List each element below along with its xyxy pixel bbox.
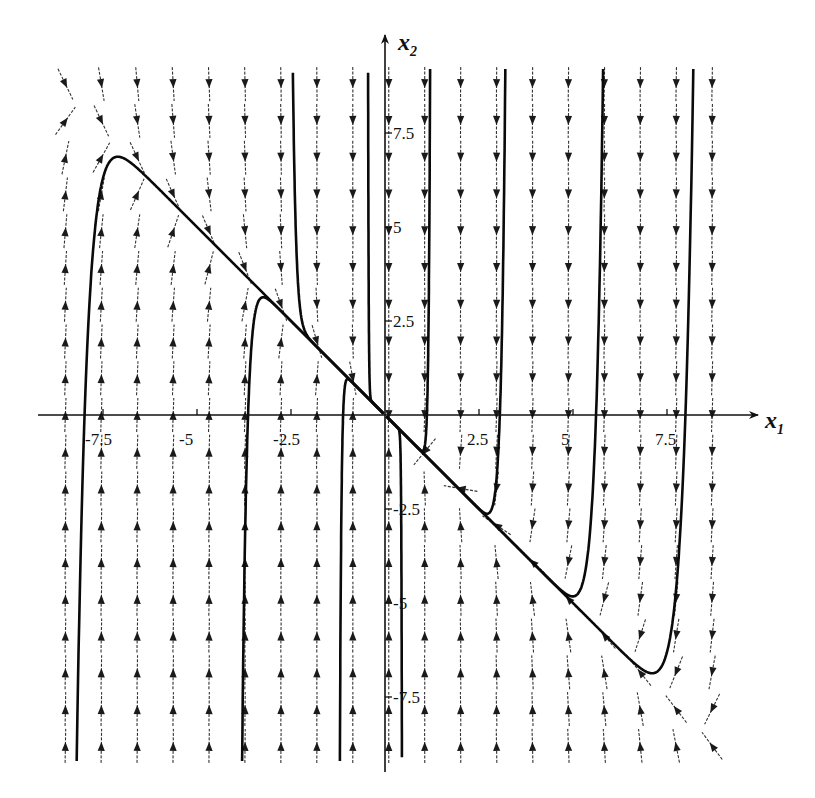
field-arrow: [61, 178, 68, 212]
field-arrow: [241, 325, 248, 359]
field-arrow: [277, 692, 284, 726]
field-arrow: [493, 288, 500, 322]
field-arrow: [277, 472, 284, 506]
field-arrow: [169, 508, 176, 542]
field-arrow: [457, 435, 464, 469]
field-arrow: [205, 67, 212, 101]
field-arrow: [313, 692, 320, 726]
field-arrow: [529, 729, 536, 763]
field-arrow: [457, 619, 464, 653]
x-tick-label: -7.5: [85, 430, 112, 449]
field-arrow: [277, 582, 284, 616]
field-arrow: [637, 214, 644, 248]
field-arrow: [205, 582, 212, 616]
field-arrow: [61, 214, 68, 248]
trajectory-traj-2: [242, 297, 384, 761]
field-arrow: [277, 251, 284, 285]
y-tick-label: 7.5: [393, 124, 414, 143]
field-arrow: [709, 214, 716, 248]
field-arrow: [277, 214, 284, 248]
field-arrow: [457, 692, 464, 726]
field-arrow: [205, 692, 212, 726]
field-arrow: [493, 582, 500, 616]
field-arrow: [134, 545, 141, 579]
field-arrow: [134, 435, 141, 469]
field-arrow: [205, 619, 212, 653]
field-arrow: [134, 729, 141, 763]
field-arrow: [277, 104, 284, 138]
field-arrow: [62, 619, 69, 653]
field-arrow: [98, 692, 105, 726]
field-arrow: [529, 582, 536, 616]
field-arrow: [565, 251, 572, 285]
field-arrow: [134, 692, 141, 726]
field-arrow: [637, 508, 644, 542]
field-arrow: [313, 655, 320, 689]
field-arrow: [709, 67, 716, 101]
field-arrow: [133, 214, 140, 248]
field-arrow: [169, 141, 176, 175]
field-arrow: [673, 177, 680, 211]
field-arrow: [62, 361, 69, 395]
field-arrow: [565, 141, 572, 175]
field-arrow: [170, 729, 177, 763]
field-arrow: [98, 508, 105, 542]
field-arrow: [205, 325, 212, 359]
field-arrow: [385, 545, 392, 579]
field-arrow: [601, 545, 608, 579]
field-arrow: [241, 214, 248, 248]
field-arrow: [529, 251, 536, 285]
field-arrow: [349, 655, 356, 689]
field-arrow: [602, 656, 609, 690]
field-arrow: [97, 214, 104, 248]
field-arrow: [709, 251, 716, 285]
field-arrow: [385, 582, 392, 616]
field-arrow: [385, 141, 392, 175]
field-arrow: [98, 619, 105, 653]
field-arrow: [565, 177, 572, 211]
field-arrow: [457, 104, 464, 138]
field-arrow: [97, 288, 104, 322]
field-arrow: [601, 361, 608, 395]
field-arrow: [55, 107, 75, 135]
field-arrow: [637, 67, 644, 101]
field-arrow: [205, 729, 212, 763]
field-arrow: [169, 435, 176, 469]
field-arrow: [241, 141, 248, 175]
field-arrow: [134, 655, 141, 689]
field-arrow: [349, 435, 356, 469]
field-arrow: [168, 215, 179, 247]
field-arrow: [62, 435, 69, 469]
field-arrow: [673, 472, 680, 506]
field-arrow: [349, 288, 356, 322]
field-arrow: [637, 692, 644, 725]
field-arrow: [673, 104, 680, 138]
field-arrow: [637, 361, 644, 395]
x-tick-label: 2.5: [467, 430, 488, 449]
field-arrow: [277, 67, 284, 101]
field-arrow: [421, 214, 428, 248]
field-arrow: [457, 214, 464, 248]
field-arrow: [134, 582, 141, 616]
field-arrow: [349, 141, 356, 175]
field-arrow: [349, 67, 356, 101]
field-arrow: [421, 288, 428, 322]
field-arrow: [313, 251, 320, 285]
field-arrow: [169, 288, 176, 322]
field-arrow: [493, 251, 500, 285]
field-arrow: [130, 179, 144, 210]
field-arrow: [529, 214, 536, 248]
field-arrow: [670, 657, 683, 689]
field-arrow: [241, 104, 248, 138]
field-arrow: [62, 508, 69, 542]
field-arrow: [421, 141, 428, 175]
field-arrow: [385, 472, 392, 506]
field-arrow: [565, 472, 572, 506]
field-arrow: [169, 67, 176, 101]
field-arrow: [98, 582, 105, 616]
field-arrow: [457, 361, 464, 395]
field-arrow: [98, 655, 105, 689]
field-arrow: [457, 582, 464, 616]
field-arrow: [385, 324, 392, 358]
field-arrow: [385, 288, 392, 322]
